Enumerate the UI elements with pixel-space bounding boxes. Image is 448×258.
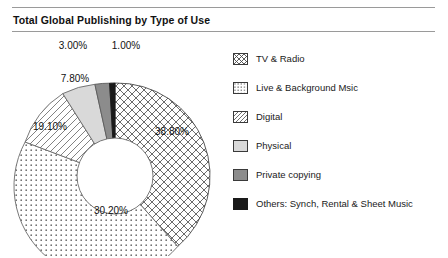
- donut-chart: 38.80% 30.20% 19.10% 7.80% 3.00% 1.00%: [0, 34, 232, 256]
- page-title: Total Global Publishing by Type of Use: [12, 8, 435, 31]
- legend-item-private-copying[interactable]: Private copying: [233, 166, 443, 184]
- legend-label-live-background: Live & Background Msic: [256, 82, 358, 94]
- slice-label-physical: 7.80%: [61, 73, 89, 84]
- slice-label-live-background: 30.20%: [94, 205, 128, 216]
- legend-swatch-light-gray-icon: [233, 140, 248, 152]
- legend-label-others: Others: Synch, Rental & Sheet Music: [256, 198, 413, 210]
- slice-label-others: 1.00%: [112, 40, 140, 51]
- legend-swatch-medium-gray-icon: [233, 169, 248, 181]
- legend-label-private-copying: Private copying: [256, 169, 321, 181]
- legend-item-others[interactable]: Others: Synch, Rental & Sheet Music: [233, 195, 443, 213]
- slice-label-private-copying: 3.00%: [59, 40, 87, 51]
- chart-legend: TV & Radio Live & Background Msic Digita…: [233, 50, 443, 224]
- slice-label-digital: 19.10%: [33, 121, 67, 132]
- legend-item-physical[interactable]: Physical: [233, 137, 443, 155]
- legend-swatch-diagonal-lines-icon: [233, 111, 248, 123]
- legend-item-tv-radio[interactable]: TV & Radio: [233, 50, 443, 68]
- donut-chart-svg: 38.80% 30.20% 19.10% 7.80% 3.00% 1.00%: [0, 34, 232, 256]
- legend-label-physical: Physical: [256, 140, 291, 152]
- legend-label-tv-radio: TV & Radio: [256, 53, 305, 65]
- donut-center-hole: [77, 138, 153, 214]
- title-rule-bottom: [12, 31, 435, 32]
- legend-item-live-background[interactable]: Live & Background Msic: [233, 79, 443, 97]
- legend-swatch-black-icon: [233, 198, 248, 210]
- legend-item-digital[interactable]: Digital: [233, 108, 443, 126]
- legend-swatch-cross-hatch-icon: [233, 53, 248, 65]
- legend-label-digital: Digital: [256, 111, 282, 123]
- title-block: Total Global Publishing by Type of Use: [12, 7, 435, 32]
- chart-page: Total Global Publishing by Type of Use: [0, 0, 448, 258]
- legend-swatch-dots-icon: [233, 82, 248, 94]
- slice-label-tv-radio: 38.80%: [155, 126, 189, 137]
